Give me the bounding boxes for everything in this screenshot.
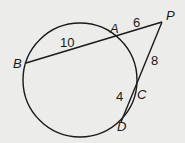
secant-pb [26,22,162,63]
point-b-label: B [13,56,22,71]
segment-pa-length: 6 [133,15,140,30]
point-c-label: C [137,87,147,102]
point-p-label: P [166,8,175,23]
point-a-label: A [109,21,119,36]
secant-pd [121,22,162,122]
secant-diagram: P A B C D 6 10 8 4 [0,0,185,143]
segment-cd-length: 4 [116,89,123,104]
segment-pc-length: 8 [151,53,158,68]
segment-ab-length: 10 [60,35,74,50]
point-d-label: D [117,119,126,134]
